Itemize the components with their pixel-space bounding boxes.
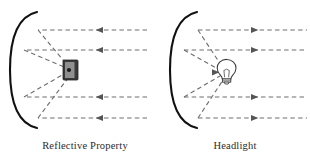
bulb-base-tip: [224, 82, 229, 84]
caption-headlight: Headlight: [160, 140, 310, 152]
receiver-sensor-dot: [67, 68, 71, 72]
figure-background: [0, 0, 310, 161]
caption-reflective-property: Reflective Property: [0, 140, 170, 152]
parabolic-reflector-figure: Reflective Property Headlight: [0, 0, 310, 161]
receiver: [63, 60, 78, 80]
figure-canvas: [0, 0, 310, 161]
